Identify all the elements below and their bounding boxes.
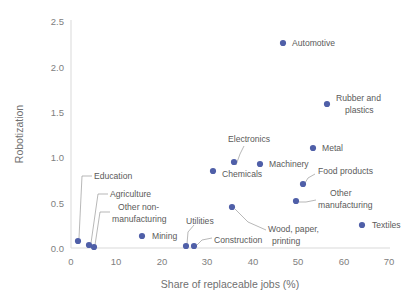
- data-point-chemicals[interactable]: [210, 168, 216, 174]
- data-point-education[interactable]: [75, 238, 81, 244]
- point-label-utilities: Utilities: [186, 216, 214, 226]
- chart-canvas: 2.5 2.0 1.5 1.0 0.5 0.0 0 10 20 30 40 50…: [0, 0, 414, 308]
- point-label-food-products: Food products: [318, 166, 373, 176]
- point-label-other-manufacturing-line2: manufacturing: [318, 200, 373, 210]
- data-point-electronics[interactable]: [231, 159, 237, 165]
- x-tick-30: 30: [202, 256, 213, 267]
- data-point-food-products[interactable]: [300, 181, 306, 187]
- leader-line-other-manufacturing: [299, 200, 316, 202]
- point-label-wood-paper-printing-line1: Wood, paper,: [268, 224, 319, 234]
- point-label-electronics: Electronics: [228, 134, 270, 144]
- leader-line-electronics: [236, 146, 244, 165]
- data-point-rubber-and-plastics[interactable]: [324, 101, 330, 107]
- scatter-chart: 2.5 2.0 1.5 1.0 0.5 0.0 0 10 20 30 40 50…: [0, 0, 414, 308]
- point-label-machinery: Machinery: [269, 159, 309, 169]
- point-label-textiles: Textiles: [372, 220, 401, 230]
- point-label-construction: Construction: [214, 235, 262, 245]
- leader-line-food-products: [305, 174, 315, 183]
- leader-line-wood-paper-printing: [235, 209, 266, 230]
- data-point-machinery[interactable]: [257, 161, 263, 167]
- point-label-metal: Metal: [322, 143, 343, 153]
- leader-line-utilities: [187, 225, 194, 244]
- point-label-other-non-manufacturing-line1: Other non-: [118, 202, 159, 212]
- point-label-chemicals: Chemicals: [222, 169, 262, 179]
- y-tick-1.0: 1.0: [51, 152, 64, 163]
- data-point-metal[interactable]: [310, 145, 316, 151]
- leader-line-other-non-manufacturing: [95, 212, 110, 245]
- y-tick-1.5: 1.5: [51, 107, 64, 118]
- x-tick-70: 70: [384, 256, 395, 267]
- data-point-construction[interactable]: [191, 243, 197, 249]
- point-label-other-manufacturing-line1: Other: [330, 188, 352, 198]
- point-label-automotive: Automotive: [292, 38, 335, 48]
- y-tick-0.5: 0.5: [51, 198, 64, 209]
- point-label-other-non-manufacturing-line2: manufacturing: [112, 214, 167, 224]
- y-tick-0.0: 0.0: [51, 243, 64, 254]
- x-tick-50: 50: [293, 256, 304, 267]
- x-tick-20: 20: [157, 256, 168, 267]
- leader-line-agriculture: [91, 194, 108, 243]
- y-tick-2.5: 2.5: [51, 16, 64, 27]
- point-label-wood-paper-printing-line2: printing: [272, 236, 300, 246]
- data-point-other-manufacturing[interactable]: [293, 198, 299, 204]
- x-tick-10: 10: [111, 256, 122, 267]
- leader-line-education: [79, 176, 92, 238]
- point-label-rubber-and-plastics-line2: plastics: [345, 105, 374, 115]
- point-label-agriculture: Agriculture: [110, 189, 151, 199]
- x-tick-40: 40: [248, 256, 259, 267]
- x-tick-0: 0: [68, 256, 73, 267]
- data-point-wood-paper-printing[interactable]: [229, 204, 235, 210]
- x-axis-title: Share of replaceable jobs (%): [161, 278, 299, 290]
- point-label-mining: Mining: [152, 231, 178, 241]
- data-point-textiles[interactable]: [359, 222, 365, 228]
- point-label-rubber-and-plastics-line1: Rubber and: [336, 93, 381, 103]
- data-point-other-non-manufacturing[interactable]: [91, 244, 97, 250]
- point-label-education: Education: [94, 171, 132, 181]
- data-point-automotive[interactable]: [280, 40, 286, 46]
- leader-line-construction: [197, 238, 212, 245]
- y-tick-2.0: 2.0: [51, 62, 64, 73]
- x-tick-60: 60: [339, 256, 350, 267]
- data-point-mining[interactable]: [139, 233, 145, 239]
- y-axis-title: Robotization: [13, 105, 25, 164]
- data-point-utilities[interactable]: [183, 243, 189, 249]
